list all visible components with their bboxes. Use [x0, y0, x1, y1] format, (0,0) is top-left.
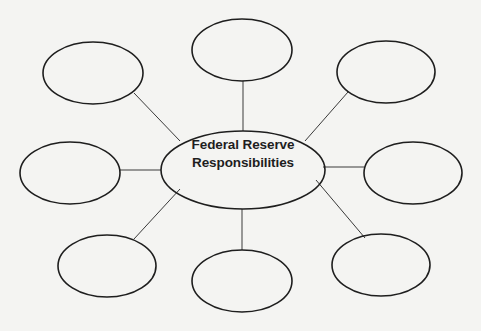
node-bottom-right — [332, 234, 430, 296]
connector-bottom-left — [134, 189, 180, 239]
connector-top-left — [134, 93, 180, 141]
node-top-left — [43, 42, 143, 104]
node-left — [20, 142, 120, 204]
center-label-line2: Responsibilities — [160, 154, 326, 172]
connector-top-right — [305, 92, 348, 141]
center-label-line1: Federal Reserve — [160, 136, 326, 154]
node-bottom-left — [58, 235, 156, 297]
node-bottom — [192, 250, 292, 312]
node-top-right — [337, 41, 435, 103]
center-node-label: Federal Reserve Responsibilities — [160, 136, 326, 172]
node-top — [192, 19, 292, 81]
node-right — [364, 142, 462, 204]
connector-bottom-right — [316, 180, 365, 238]
